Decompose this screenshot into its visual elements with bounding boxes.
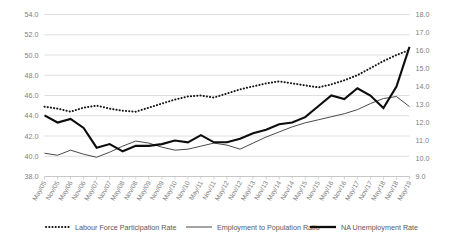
right-axis-tick-label: 12.0 bbox=[416, 118, 430, 127]
right-axis-tick-label: 9.0 bbox=[416, 172, 426, 181]
legend-item-label: Labour Force Participation Rate bbox=[75, 223, 176, 232]
legend-item-label: NA Unemployment Rate bbox=[341, 223, 418, 232]
left-axis-tick-label: 42.0 bbox=[25, 132, 39, 141]
series-line bbox=[45, 47, 410, 151]
chart-container: 38.040.042.044.046.048.050.052.054.0 9.0… bbox=[0, 0, 456, 241]
series-group bbox=[45, 47, 410, 157]
right-axis-tick-label: 15.0 bbox=[416, 64, 430, 73]
right-axis-tick-label: 14.0 bbox=[416, 82, 430, 91]
left-axis-tick-label: 44.0 bbox=[25, 111, 39, 120]
right-axis-tick-label: 18.0 bbox=[416, 10, 430, 19]
series-line bbox=[45, 97, 410, 158]
x-axis-tickmarks bbox=[45, 177, 410, 180]
right-axis-tick-labels: 9.010.011.012.013.014.015.016.017.018.0 bbox=[416, 10, 430, 181]
left-axis-tick-label: 40.0 bbox=[25, 152, 39, 161]
dual-axis-line-chart: 38.040.042.044.046.048.050.052.054.0 9.0… bbox=[0, 0, 456, 241]
series-line bbox=[45, 50, 410, 112]
right-axis-tick-label: 10.0 bbox=[416, 154, 430, 163]
right-axis-tick-label: 13.0 bbox=[416, 100, 430, 109]
right-axis-tick-label: 17.0 bbox=[416, 28, 430, 37]
gridlines-group bbox=[45, 15, 410, 177]
left-axis-tick-label: 54.0 bbox=[25, 10, 39, 19]
left-axis-tick-label: 52.0 bbox=[25, 30, 39, 39]
left-axis-tick-labels: 38.040.042.044.046.048.050.052.054.0 bbox=[25, 10, 39, 181]
chart-legend: Labour Force Participation RateEmploymen… bbox=[46, 223, 418, 232]
right-axis-tick-label: 16.0 bbox=[416, 46, 430, 55]
legend-item-label: Employment to Population Ratio bbox=[217, 223, 320, 232]
left-axis-tick-label: 46.0 bbox=[25, 91, 39, 100]
left-axis-tick-label: 50.0 bbox=[25, 51, 39, 60]
left-axis-tick-label: 48.0 bbox=[25, 71, 39, 80]
right-axis-tick-label: 11.0 bbox=[416, 136, 429, 145]
x-axis-tick-labels: May/05Nov/05May/06Nov/06May/07Nov/07May/… bbox=[31, 179, 414, 202]
left-axis-tick-label: 38.0 bbox=[25, 172, 39, 181]
